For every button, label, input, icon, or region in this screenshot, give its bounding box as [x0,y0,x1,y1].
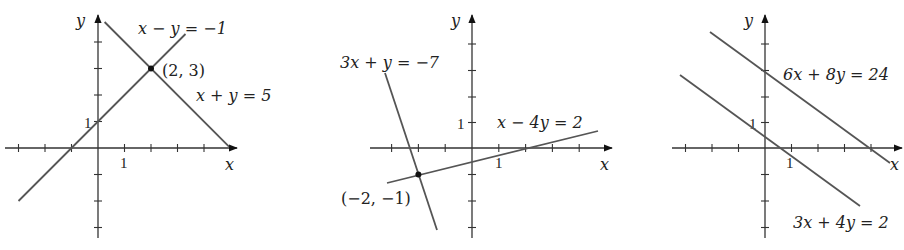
equation-label-2: x − 4y = 2 [497,113,583,132]
y-axis-label: y [75,11,86,30]
intersection-point [148,66,154,72]
graph-3: y x 1 1 6x + 8y = 24 3x + 4y = 2 [672,11,902,238]
figure-canvas: y x 1 1 x − y = −1 (2, 3) x + y = 5 y x … [0,0,904,250]
x-tick-label-one: 1 [495,155,503,171]
x-axis-label: x [225,155,234,174]
equation-label-1: 3x + y = −7 [340,53,440,72]
equation-label-1: 6x + 8y = 24 [783,65,889,84]
graph-2: y x 1 1 3x + y = −7 x − 4y = 2 (−2, −1) [340,11,612,238]
point-label: (2, 3) [162,61,205,80]
equation-label-2: x + y = 5 [196,86,271,105]
y-axis-label: y [743,11,754,30]
line-3x-plus-4y-eq-2 [680,75,860,206]
line-x-plus-y-eq-5 [105,22,229,147]
line-6x-plus-8y-eq-24 [710,32,890,163]
x-axis-label: x [600,155,609,174]
line-x-minus-y-eq-neg1 [19,34,186,201]
y-axis-label: y [450,11,461,30]
x-axis-label: x [890,155,899,174]
y-tick-label-one: 1 [457,116,465,132]
point-label: (−2, −1) [341,189,411,208]
x-tick-label-one: 1 [120,155,128,171]
equation-label-1: x − y = −1 [138,19,227,38]
equation-label-2: 3x + 4y = 2 [793,213,889,232]
graph-1: y x 1 1 x − y = −1 (2, 3) x + y = 5 [5,11,271,238]
intersection-point [415,172,421,178]
